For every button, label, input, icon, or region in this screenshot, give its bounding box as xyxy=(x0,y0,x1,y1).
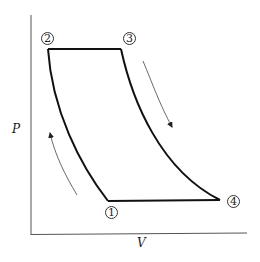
state-label-2: 2 xyxy=(41,32,54,45)
x-axis-label: V xyxy=(137,236,146,250)
expansion-arrow-icon xyxy=(143,61,172,127)
x-axis xyxy=(31,233,247,235)
process-4-1 xyxy=(108,200,220,201)
process-1-2 xyxy=(48,49,108,201)
state-label-4: 4 xyxy=(227,195,240,208)
y-axis-label: P xyxy=(12,122,20,136)
state-label-1: 1 xyxy=(105,206,118,219)
state-label-3: 3 xyxy=(123,32,136,45)
